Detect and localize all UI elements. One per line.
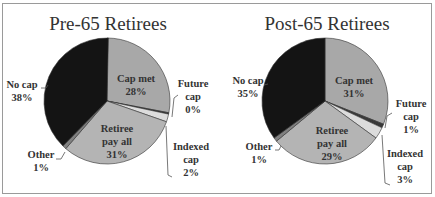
label-future-cap-pre65: Future xyxy=(178,78,209,89)
label-retiree-pay-all2-post65: pay all xyxy=(317,138,347,149)
pct-indexed-cap-post65: 3% xyxy=(397,174,413,185)
label-future-cap2-post65: cap xyxy=(403,111,419,122)
label-future-cap2-pre65: cap xyxy=(185,91,201,102)
pct-no-cap-post65: 35% xyxy=(238,88,259,99)
label-other-post65: Other xyxy=(246,141,273,152)
pct-future-cap-pre65: 0% xyxy=(185,104,201,115)
label-cap-met-pre65: Cap met xyxy=(117,73,156,84)
pct-no-cap-pre65: 38% xyxy=(12,92,33,103)
label-indexed-cap2-pre65: cap xyxy=(183,154,199,165)
label-indexed-cap2-post65: cap xyxy=(397,161,413,172)
label-no-cap-post65: No cap xyxy=(232,75,263,86)
label-retiree-pay-all-post65: Retiree xyxy=(316,125,349,136)
pct-indexed-cap-pre65: 2% xyxy=(183,167,199,178)
charts-canvas: Pre-65 Retirees Cap met 28% Future cap 0… xyxy=(0,0,435,197)
pct-other-post65: 1% xyxy=(251,154,267,165)
pct-retiree-pay-all-post65: 29% xyxy=(322,151,343,162)
pct-cap-met-pre65: 28% xyxy=(126,86,147,97)
pct-retiree-pay-all-pre65: 31% xyxy=(107,149,128,160)
label-other-pre65: Other xyxy=(28,149,55,160)
pct-other-pre65: 1% xyxy=(33,162,49,173)
label-indexed-cap-pre65: Indexed xyxy=(173,141,209,152)
label-future-cap-post65: Future xyxy=(396,98,427,109)
label-indexed-cap-post65: Indexed xyxy=(387,148,423,159)
label-retiree-pay-all2-pre65: pay all xyxy=(102,136,132,147)
pct-cap-met-post65: 31% xyxy=(344,88,365,99)
pct-future-cap-post65: 1% xyxy=(403,124,419,135)
label-retiree-pay-all-pre65: Retiree xyxy=(101,123,134,134)
chart-title-pre65: Pre-65 Retirees xyxy=(49,13,167,34)
chart-title-post65: Post-65 Retirees xyxy=(264,13,389,34)
label-no-cap-pre65: No cap xyxy=(6,79,37,90)
label-cap-met-post65: Cap met xyxy=(335,75,374,86)
